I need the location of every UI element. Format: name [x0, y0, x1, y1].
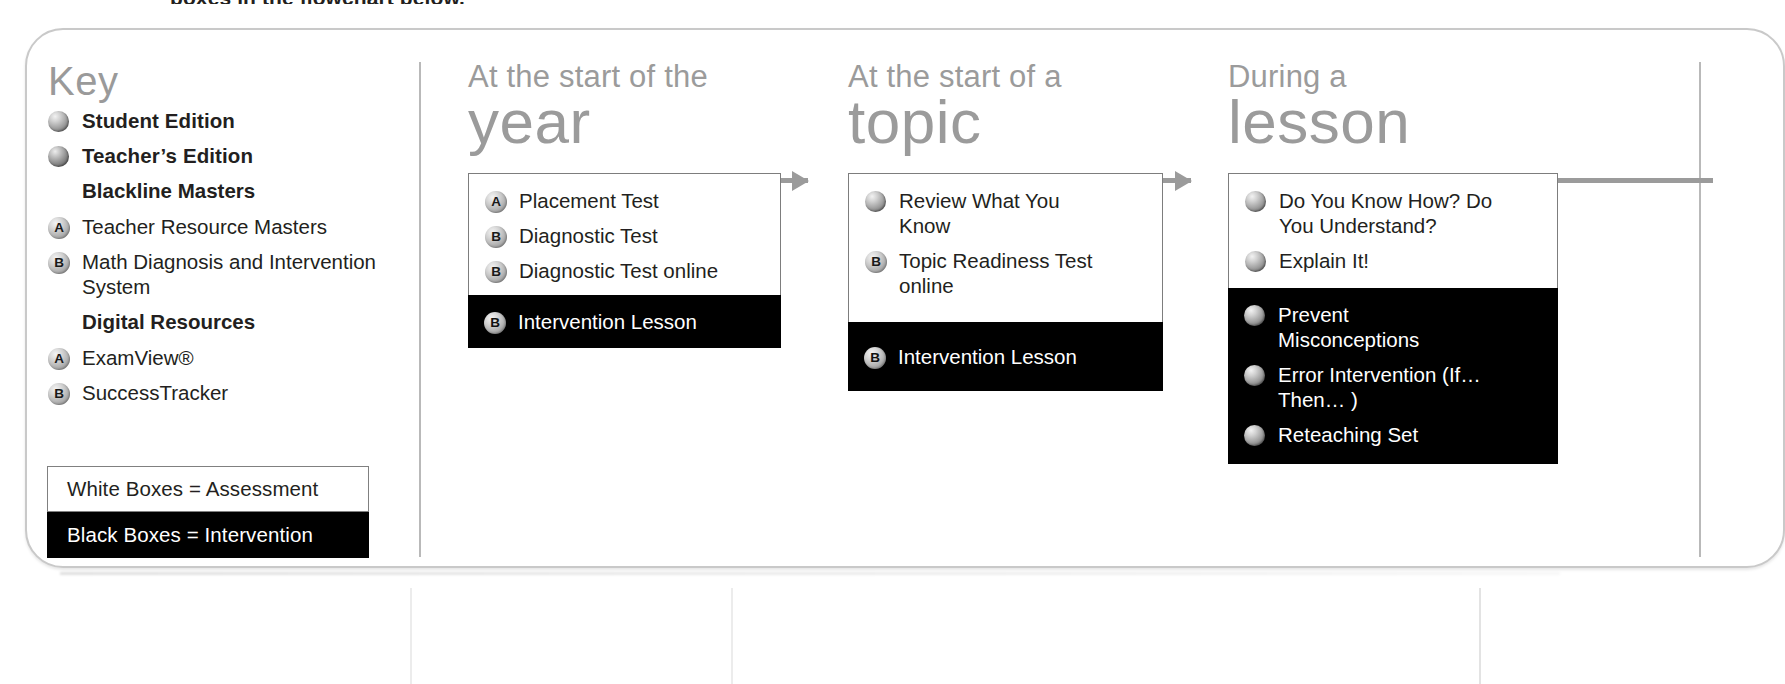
sphere-icon — [1244, 362, 1278, 390]
flow-column-lesson: During a lesson — [1228, 60, 1558, 153]
assessment-section: Review What You Know B Topic Readiness T… — [848, 173, 1163, 322]
key-item-examview: A ExamView® — [48, 345, 398, 373]
flow-box-topic: Review What You Know B Topic Readiness T… — [848, 173, 1163, 391]
intervention-section: Prevent Misconceptions Error Interventio… — [1228, 288, 1558, 464]
badge-b-icon: B — [484, 309, 518, 334]
key-item-math-diagnosis: B Math Diagnosis and Intervention System — [48, 249, 398, 299]
item-label: Topic Readiness Test online — [899, 248, 1099, 298]
flow-box-year: A Placement Test B Diagnostic Test B Dia… — [468, 173, 781, 348]
item-label: Prevent Misconceptions — [1278, 302, 1458, 352]
key-item-label: SuccessTracker — [82, 380, 228, 405]
box-color-legend: White Boxes = Assessment Black Boxes = I… — [47, 466, 369, 558]
badge-a-icon: A — [48, 214, 82, 239]
badge-b-icon: B — [485, 258, 519, 283]
list-item: A Placement Test — [485, 188, 764, 213]
badge-a-icon: A — [485, 188, 519, 213]
badge-b-icon: B — [48, 249, 82, 274]
list-item: Prevent Misconceptions — [1244, 302, 1542, 352]
key-item-label: Math Diagnosis and Intervention System — [82, 249, 398, 299]
badge-b-icon: B — [485, 223, 519, 248]
badge-a-icon: A — [48, 345, 82, 370]
key-heading-label: Digital Resources — [82, 309, 255, 334]
key-item-label: Student Edition — [82, 108, 235, 133]
column-title: topic — [848, 91, 1168, 153]
key-legend-panel: Key Student Edition Teacher’s Edition Bl… — [48, 60, 398, 415]
right-divider — [1699, 62, 1701, 557]
item-label: Explain It! — [1279, 248, 1369, 273]
badge-b-icon: B — [48, 380, 82, 405]
key-heading-blackline-masters: Blackline Masters — [82, 178, 398, 206]
list-item: B Diagnostic Test online — [485, 258, 764, 283]
intervention-section: B Intervention Lesson — [468, 295, 781, 348]
flow-box-lesson: Do You Know How? Do You Understand? Expl… — [1228, 173, 1558, 464]
sphere-icon — [48, 108, 82, 136]
badge-b-icon: B — [865, 248, 899, 273]
intervention-section: B Intervention Lesson — [848, 322, 1163, 391]
sphere-icon — [1245, 188, 1279, 216]
list-item: B Topic Readiness Test online — [865, 248, 1146, 298]
assessment-section: Do You Know How? Do You Understand? Expl… — [1228, 173, 1558, 288]
list-item: Do You Know How? Do You Understand? — [1245, 188, 1541, 238]
key-item-student-edition: Student Edition — [48, 108, 398, 136]
item-label: Review What You Know — [899, 188, 1079, 238]
page-edge-line — [410, 588, 412, 684]
key-item-label: Teacher’s Edition — [82, 143, 253, 168]
column-title: year — [468, 91, 788, 153]
item-label: Diagnostic Test online — [519, 258, 718, 283]
sphere-icon — [865, 188, 899, 216]
list-item: B Intervention Lesson — [484, 309, 765, 334]
item-label: Do You Know How? Do You Understand? — [1279, 188, 1519, 238]
list-item: Reteaching Set — [1244, 422, 1542, 450]
sphere-icon — [1244, 302, 1278, 330]
item-label: Error Intervention (If… Then… ) — [1278, 362, 1508, 412]
item-label: Diagnostic Test — [519, 223, 658, 248]
list-item: Review What You Know — [865, 188, 1146, 238]
key-item-successtracker: B SuccessTracker — [48, 380, 398, 408]
badge-b-icon: B — [864, 344, 898, 369]
page-caption: boxes in the flowchart below. — [170, 0, 465, 4]
column-title: lesson — [1228, 91, 1558, 153]
list-item: Error Intervention (If… Then… ) — [1244, 362, 1542, 412]
sphere-icon — [1245, 248, 1279, 276]
list-item: B Intervention Lesson — [864, 344, 1147, 369]
list-item: Explain It! — [1245, 248, 1541, 276]
key-heading-digital-resources: Digital Resources — [82, 309, 398, 337]
item-label: Intervention Lesson — [518, 309, 697, 334]
key-divider — [419, 62, 421, 557]
item-label: Placement Test — [519, 188, 659, 213]
page-edge-line — [1479, 588, 1481, 684]
card-shadow — [60, 572, 1560, 575]
key-title: Key — [48, 60, 398, 102]
flow-column-year: At the start of the year — [468, 60, 788, 153]
legend-white-boxes: White Boxes = Assessment — [47, 466, 369, 512]
key-item-label: ExamView® — [82, 345, 194, 370]
legend-black-boxes: Black Boxes = Intervention — [47, 512, 369, 558]
list-item: B Diagnostic Test — [485, 223, 764, 248]
page-edge-line — [731, 588, 733, 684]
key-item-teachers-edition: Teacher’s Edition — [48, 143, 398, 171]
item-label: Intervention Lesson — [898, 344, 1077, 369]
key-item-teacher-resource-masters: A Teacher Resource Masters — [48, 214, 398, 242]
item-label: Reteaching Set — [1278, 422, 1418, 447]
key-item-label: Teacher Resource Masters — [82, 214, 327, 239]
assessment-section: A Placement Test B Diagnostic Test B Dia… — [468, 173, 781, 295]
sphere-icon — [48, 143, 82, 171]
sphere-icon — [1244, 422, 1278, 450]
flow-column-topic: At the start of a topic — [848, 60, 1168, 153]
key-heading-label: Blackline Masters — [82, 178, 255, 203]
